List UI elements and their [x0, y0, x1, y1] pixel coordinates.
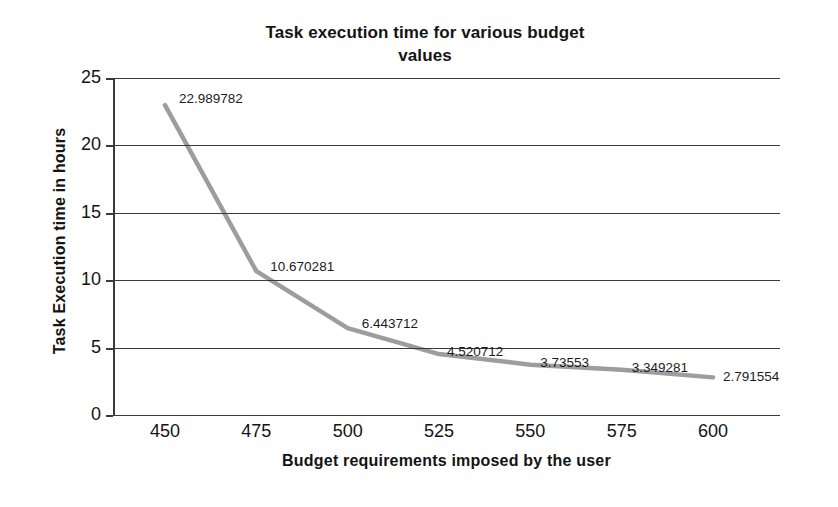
- y-tick-mark: [106, 348, 113, 350]
- gridline: [113, 145, 780, 146]
- chart-title: Task execution time for various budget v…: [145, 22, 705, 68]
- y-tick-mark: [106, 415, 113, 417]
- y-tick-mark: [106, 280, 113, 282]
- data-point-label: 10.670281: [270, 259, 334, 274]
- x-tick-label: 500: [313, 421, 383, 442]
- x-axis-title: Budget requirements imposed by the user: [113, 452, 780, 470]
- data-point-label: 22.989782: [179, 91, 243, 106]
- y-tick-label: 20: [55, 134, 101, 155]
- y-tick-label: 15: [55, 202, 101, 223]
- x-tick-label: 550: [495, 421, 565, 442]
- data-point-label: 2.791554: [723, 369, 779, 384]
- y-tick-mark: [106, 78, 113, 80]
- y-tick-label: 0: [55, 404, 101, 425]
- x-tick-label: 525: [404, 421, 474, 442]
- gridline: [113, 213, 780, 214]
- y-tick-label: 5: [55, 337, 101, 358]
- chart-title-line-1: Task execution time for various budget: [266, 23, 585, 42]
- data-point-label: 4.520712: [447, 344, 503, 359]
- x-tick-label: 475: [221, 421, 291, 442]
- data-point-label: 3.349281: [632, 360, 688, 375]
- y-tick-mark: [106, 145, 113, 147]
- chart-container: Task execution time for various budget v…: [0, 0, 838, 507]
- y-tick-label: 25: [55, 67, 101, 88]
- data-point-label: 3.73553: [540, 355, 589, 370]
- gridline: [113, 415, 780, 416]
- y-tick-label: 10: [55, 269, 101, 290]
- chart-title-line-2: values: [398, 46, 452, 65]
- y-tick-mark: [106, 213, 113, 215]
- x-tick-label: 575: [587, 421, 657, 442]
- x-tick-label: 450: [130, 421, 200, 442]
- data-point-label: 6.443712: [362, 316, 418, 331]
- gridline: [113, 78, 780, 79]
- gridline: [113, 280, 780, 281]
- x-tick-label: 600: [678, 421, 748, 442]
